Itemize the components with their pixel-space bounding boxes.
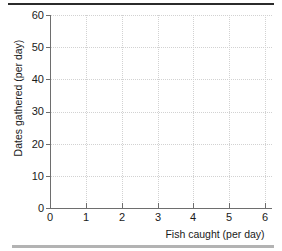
x-tick-mark: [193, 203, 194, 208]
y-axis-line: [50, 15, 51, 209]
y-tick-label: 50: [4, 42, 44, 53]
y-tick-label: 30: [4, 106, 44, 117]
gridline-horizontal: [50, 144, 272, 145]
y-tick-label: 20: [4, 139, 44, 150]
x-tick-label: 2: [110, 211, 134, 223]
y-tick-label: 60: [4, 10, 44, 21]
gridline-vertical: [86, 15, 87, 208]
x-tick-mark: [86, 203, 87, 208]
x-tick-label: 3: [146, 211, 170, 223]
gridline-horizontal: [50, 176, 272, 177]
gridline-vertical: [265, 15, 266, 208]
gridline-vertical: [158, 15, 159, 208]
x-tick-mark: [265, 203, 266, 208]
x-tick-label: 1: [74, 211, 98, 223]
chart-figure: 60 50 40 30 20 10 0 0 1 2 3 4: [0, 0, 282, 251]
top-divider-rule: [8, 3, 274, 5]
gridline-horizontal: [50, 112, 272, 113]
x-tick-mark: [158, 203, 159, 208]
gridline-horizontal: [50, 15, 272, 16]
x-tick-label: 6: [253, 211, 277, 223]
bottom-divider-rule: [12, 245, 274, 248]
x-tick-label: 5: [217, 211, 241, 223]
gridline-vertical: [122, 15, 123, 208]
gridline-horizontal: [50, 79, 272, 80]
gridline-vertical: [229, 15, 230, 208]
x-axis-line: [50, 208, 272, 209]
gridline-vertical: [193, 15, 194, 208]
x-tick-mark: [229, 203, 230, 208]
y-tick-label: 10: [4, 171, 44, 182]
y-axis-title: Dates gathered (per day): [12, 18, 24, 178]
x-tick-label: 4: [181, 211, 205, 223]
gridline-horizontal: [50, 47, 272, 48]
x-tick-mark: [122, 203, 123, 208]
y-tick-label: 40: [4, 74, 44, 85]
x-tick-mark: [50, 203, 51, 208]
x-tick-label: 0: [38, 211, 62, 223]
x-axis-title: Fish caught (per day): [152, 228, 278, 240]
plot-area: [50, 15, 272, 208]
